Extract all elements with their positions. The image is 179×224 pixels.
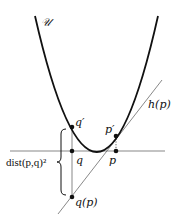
- p-label: p: [109, 154, 116, 167]
- dist-label: dist(p,q)²: [6, 156, 47, 169]
- point-q: [70, 149, 75, 154]
- lifting-diagram: 𝒰 q′ p′ q p h(p) q(p) dist(p,q)²: [0, 0, 179, 224]
- point-q-prime: [70, 125, 75, 130]
- q-p-label: q(p): [75, 196, 98, 209]
- tangent-line-h: [58, 80, 162, 214]
- point-q-of-p: [70, 195, 75, 200]
- q-label: q: [76, 154, 83, 167]
- h-p-label: h(p): [148, 98, 171, 111]
- curve-label: 𝒰: [41, 16, 54, 29]
- q-prime-label: q′: [75, 116, 85, 129]
- point-p: [114, 149, 119, 154]
- p-prime-label: p′: [105, 123, 115, 136]
- distance-brace: [57, 129, 66, 195]
- paraboloid-curve: [35, 16, 158, 152]
